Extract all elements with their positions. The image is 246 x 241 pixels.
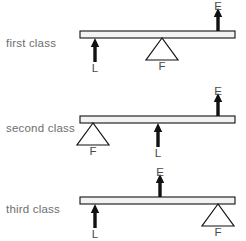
lever-classes-diagram: first classLFEsecond classFLEthird class… xyxy=(0,0,246,241)
effort-symbol: E xyxy=(156,166,164,178)
fulcrum-triangle xyxy=(202,204,234,226)
lever-drawing xyxy=(0,0,246,241)
load-arrow-icon xyxy=(91,204,99,228)
fulcrum-symbol: F xyxy=(214,226,221,238)
load-symbol: L xyxy=(92,228,98,240)
lever-beam xyxy=(80,197,235,204)
